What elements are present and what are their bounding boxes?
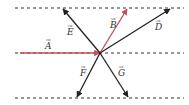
vector-arrow-accent-icon: →: [68, 22, 73, 29]
vector-arrow-accent-icon: →: [156, 17, 161, 24]
vector-arrow-accent-icon: →: [81, 63, 86, 70]
vector-arrow-accent-icon: →: [119, 63, 124, 70]
vector-arrow-accent-icon: →: [46, 36, 51, 43]
vector-diagram: A→B→D→E→F→G→: [0, 0, 189, 105]
vector-arrow-accent-icon: →: [111, 15, 116, 22]
